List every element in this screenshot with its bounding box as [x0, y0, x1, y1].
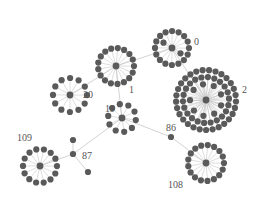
leaf-node[interactable]: [220, 154, 226, 160]
leaf-node[interactable]: [131, 109, 137, 115]
leaf-node[interactable]: [187, 97, 193, 103]
leaf-node[interactable]: [114, 81, 120, 87]
leaf-node[interactable]: [193, 69, 199, 75]
leaf-node[interactable]: [173, 92, 179, 98]
leaf-node[interactable]: [226, 96, 232, 102]
leaf-node[interactable]: [59, 77, 65, 83]
leaf-node[interactable]: [76, 77, 82, 83]
cluster-2[interactable]: [173, 67, 239, 133]
leaf-node[interactable]: [95, 66, 101, 72]
leaf-node[interactable]: [108, 80, 114, 86]
leaf-node[interactable]: [26, 176, 32, 182]
leaf-node[interactable]: [181, 57, 187, 63]
leaf-node[interactable]: [225, 102, 231, 108]
leaf-node[interactable]: [102, 49, 108, 55]
hub-node-19[interactable]: [119, 115, 126, 122]
leaf-node[interactable]: [228, 80, 234, 86]
leaf-node[interactable]: [211, 111, 217, 117]
leaf-node[interactable]: [218, 102, 224, 108]
leaf-node[interactable]: [186, 45, 192, 51]
leaf-node[interactable]: [218, 91, 224, 97]
leaf-node[interactable]: [200, 81, 206, 87]
leaf-node[interactable]: [131, 63, 137, 69]
leaf-node[interactable]: [231, 86, 237, 92]
leaf-node[interactable]: [67, 109, 73, 115]
leaf-node[interactable]: [185, 157, 191, 163]
leaf-node[interactable]: [169, 62, 175, 68]
leaf-node[interactable]: [233, 98, 239, 104]
cluster-0[interactable]: [152, 28, 192, 68]
leaf-node[interactable]: [113, 127, 119, 133]
leaf-node[interactable]: [190, 124, 196, 130]
hub-node-2[interactable]: [203, 97, 210, 104]
leaf-node[interactable]: [102, 77, 108, 83]
leaf-node[interactable]: [175, 61, 181, 67]
leaf-node[interactable]: [201, 120, 207, 126]
leaf-node[interactable]: [200, 67, 206, 73]
leaf-node[interactable]: [176, 111, 182, 117]
leaf-node[interactable]: [219, 113, 225, 119]
leaf-node[interactable]: [54, 163, 60, 169]
leaf-node[interactable]: [20, 163, 26, 169]
leaf-node[interactable]: [125, 102, 131, 108]
leaf-node[interactable]: [185, 163, 191, 169]
leaf-node[interactable]: [230, 111, 236, 117]
cluster-1[interactable]: [95, 45, 137, 87]
leaf-node[interactable]: [41, 180, 47, 186]
node-87b[interactable]: [85, 169, 91, 175]
leaf-node[interactable]: [203, 127, 209, 133]
leaf-node[interactable]: [177, 50, 183, 56]
leaf-node[interactable]: [188, 169, 194, 175]
leaf-node[interactable]: [174, 105, 180, 111]
leaf-node[interactable]: [216, 148, 222, 154]
leaf-node[interactable]: [218, 71, 224, 77]
leaf-node[interactable]: [67, 75, 73, 81]
leaf-node[interactable]: [82, 101, 88, 107]
leaf-node[interactable]: [126, 51, 132, 57]
leaf-node[interactable]: [126, 75, 132, 81]
cluster-108[interactable]: [185, 142, 227, 184]
leaf-node[interactable]: [22, 155, 28, 161]
leaf-node[interactable]: [197, 126, 203, 132]
leaf-node[interactable]: [106, 121, 112, 127]
leaf-node[interactable]: [178, 80, 184, 86]
leaf-node[interactable]: [192, 77, 198, 83]
leaf-node[interactable]: [180, 98, 186, 104]
leaf-node[interactable]: [221, 121, 227, 127]
leaf-node[interactable]: [157, 33, 163, 39]
leaf-node[interactable]: [58, 107, 64, 113]
leaf-node[interactable]: [216, 172, 222, 178]
leaf-node[interactable]: [157, 57, 163, 63]
leaf-node[interactable]: [232, 105, 238, 111]
leaf-node[interactable]: [221, 160, 227, 166]
leaf-node[interactable]: [50, 92, 56, 98]
leaf-node[interactable]: [41, 146, 47, 152]
leaf-node[interactable]: [181, 33, 187, 39]
leaf-node[interactable]: [98, 53, 104, 59]
leaf-node[interactable]: [52, 83, 58, 89]
leaf-node[interactable]: [52, 100, 58, 106]
leaf-node[interactable]: [216, 124, 222, 130]
node-87[interactable]: [70, 151, 76, 157]
leaf-node[interactable]: [204, 178, 210, 184]
leaf-node[interactable]: [222, 83, 228, 89]
leaf-node[interactable]: [176, 29, 182, 35]
leaf-node[interactable]: [205, 142, 211, 148]
leaf-node[interactable]: [233, 92, 239, 98]
leaf-node[interactable]: [223, 75, 229, 81]
leaf-node[interactable]: [183, 86, 189, 92]
leaf-node[interactable]: [195, 118, 201, 124]
leaf-node[interactable]: [115, 45, 121, 51]
leaf-node[interactable]: [191, 107, 197, 113]
leaf-node[interactable]: [198, 74, 204, 80]
leaf-node[interactable]: [95, 60, 101, 66]
leaf-node[interactable]: [211, 76, 217, 82]
node-86[interactable]: [168, 134, 174, 140]
cluster-109[interactable]: [20, 146, 60, 185]
leaf-node[interactable]: [223, 108, 229, 114]
leaf-node[interactable]: [175, 86, 181, 92]
leaf-node[interactable]: [153, 51, 159, 57]
leaf-node[interactable]: [187, 80, 193, 86]
leaf-node[interactable]: [162, 61, 168, 67]
leaf-node[interactable]: [192, 174, 198, 180]
